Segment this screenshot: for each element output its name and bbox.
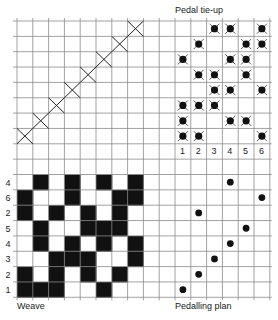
weave-cell	[112, 267, 128, 283]
pedalling-plan-title: Pedalling plan	[175, 301, 232, 311]
weave-cell	[64, 251, 80, 267]
tieup-dot	[195, 102, 202, 109]
tieup-dot	[243, 117, 250, 124]
weave-cell	[80, 267, 96, 283]
weave-cell	[128, 190, 144, 206]
tieup-dot	[258, 133, 265, 140]
weave-row-label: 4	[3, 239, 13, 249]
weave-row-label: 4	[3, 178, 13, 188]
weave-row-label: 1	[3, 285, 13, 295]
pedalling-dot	[195, 209, 202, 216]
tieup-dot	[179, 102, 186, 109]
pedal-number: 4	[227, 146, 232, 156]
weave-cell	[49, 267, 65, 283]
weave-cell	[96, 236, 112, 252]
pedal-number: 3	[212, 146, 217, 156]
weave-row-label: 5	[3, 224, 13, 234]
weave-cell	[64, 190, 80, 206]
tieup-dot	[195, 71, 202, 78]
weave-row-label: 2	[3, 270, 13, 280]
weave-cell	[128, 236, 144, 252]
tieup-dot	[179, 117, 186, 124]
tieup-dot	[211, 102, 218, 109]
weave-cell	[17, 267, 33, 283]
pedal-number: 5	[243, 146, 248, 156]
weave-cell	[33, 221, 49, 237]
pedalling-dot	[211, 256, 218, 263]
weave-cell	[17, 190, 33, 206]
weave-title: Weave	[17, 301, 45, 311]
weave-cell	[96, 221, 112, 237]
pedalling-dot	[243, 225, 250, 232]
tieup-dot	[258, 40, 265, 47]
weave-row-label: 3	[3, 254, 13, 264]
pedalling-dot	[227, 179, 234, 186]
weaving-draft-grid	[0, 0, 278, 320]
tieup-dot	[258, 25, 265, 32]
pedal-number: 1	[180, 146, 185, 156]
weave-cell	[80, 251, 96, 267]
tieup-dot	[179, 133, 186, 140]
weave-cell	[49, 251, 65, 267]
weave-cell	[17, 205, 33, 221]
pedalling-dot	[180, 286, 187, 293]
weave-cell	[64, 236, 80, 252]
tieup-dot	[195, 133, 202, 140]
weave-cell	[33, 282, 49, 298]
weave-cell	[112, 205, 128, 221]
weave-cell	[33, 175, 49, 191]
tieup-dot	[227, 56, 234, 63]
weave-cell	[96, 175, 112, 191]
tieup-dot	[227, 25, 234, 32]
weave-cell	[128, 175, 144, 191]
weave-cell	[128, 251, 144, 267]
weave-cell	[17, 282, 33, 298]
pedalling-dot	[195, 271, 202, 278]
weave-cell	[33, 236, 49, 252]
weave-cell	[80, 205, 96, 221]
weave-cell	[49, 282, 65, 298]
pedal-number: 6	[259, 146, 264, 156]
weave-row-label: 6	[3, 193, 13, 203]
tieup-dot	[243, 71, 250, 78]
tieup-dot	[211, 25, 218, 32]
weave-cell	[49, 205, 65, 221]
tieup-dot	[243, 56, 250, 63]
tieup-dot	[227, 86, 234, 93]
pedalling-dot	[259, 194, 266, 201]
tieup-dot	[179, 56, 186, 63]
weave-row-label: 2	[3, 208, 13, 218]
weave-cell	[96, 282, 112, 298]
tieup-dot	[195, 40, 202, 47]
tieup-dot	[227, 117, 234, 124]
tieup-dot	[243, 40, 250, 47]
weave-cell	[112, 190, 128, 206]
weave-cell	[112, 221, 128, 237]
tieup-dot	[258, 86, 265, 93]
pedalling-dot	[227, 240, 234, 247]
tieup-dot	[211, 86, 218, 93]
weave-cell	[80, 221, 96, 237]
weave-cell	[64, 175, 80, 191]
tieup-dot	[211, 71, 218, 78]
tieup-title: Pedal tie-up	[175, 5, 223, 15]
pedal-number: 2	[196, 146, 201, 156]
